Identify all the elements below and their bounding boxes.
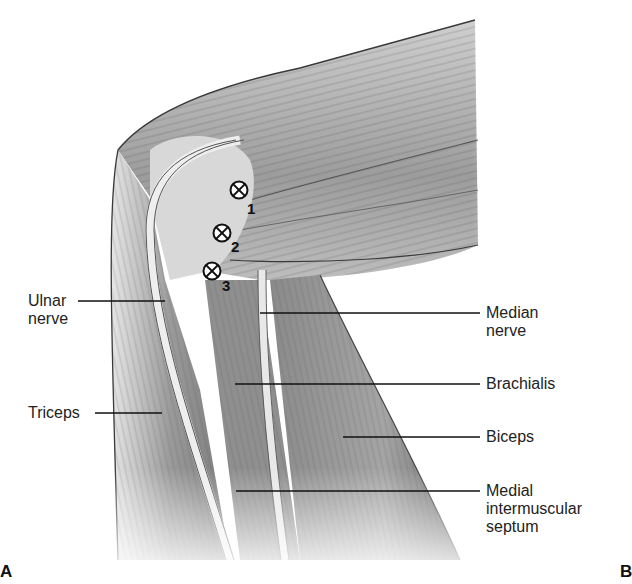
- label-medial-intermuscular-septum: Medial intermuscular septum: [486, 482, 582, 536]
- marker-1-icon: [231, 182, 248, 199]
- label-triceps: Triceps: [28, 404, 80, 422]
- label-ulnar-nerve: Ulnar nerve: [28, 292, 68, 328]
- panel-letter-b: B: [620, 562, 632, 582]
- panel-letter-a: A: [0, 562, 12, 582]
- label-brachialis: Brachialis: [486, 375, 555, 393]
- marker-1-number: 1: [247, 200, 255, 217]
- label-median-nerve: Median nerve: [486, 304, 538, 340]
- label-biceps: Biceps: [486, 428, 534, 446]
- marker-2-number: 2: [231, 238, 239, 255]
- marker-2-icon: [214, 225, 231, 242]
- marker-3-number: 3: [222, 277, 230, 294]
- marker-3-icon: [204, 263, 221, 280]
